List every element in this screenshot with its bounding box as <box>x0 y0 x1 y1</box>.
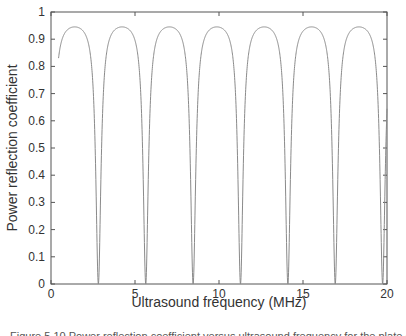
x-tick-label: 0 <box>48 287 55 301</box>
y-tick-label: 0.3 <box>28 195 45 209</box>
y-tick-label: 0.9 <box>28 32 45 46</box>
y-tick-label: 0.4 <box>28 168 45 182</box>
reflection-curve <box>59 27 387 284</box>
y-tick-label: 0.5 <box>28 141 45 155</box>
y-tick-label: 0.8 <box>28 59 45 73</box>
y-tick-label: 0.1 <box>28 250 45 264</box>
figure-caption: Figure 5.10 Power reflection coefficient… <box>10 329 406 336</box>
y-axis-ticks: 00.10.20.30.40.50.60.70.80.91 <box>28 5 387 291</box>
y-tick-label: 0 <box>38 277 45 291</box>
data-series <box>59 27 387 284</box>
line-chart: 05101520 00.10.20.30.40.50.60.70.80.91 U… <box>0 0 406 336</box>
y-tick-label: 0.2 <box>28 223 45 237</box>
figure: 05101520 00.10.20.30.40.50.60.70.80.91 U… <box>0 0 406 336</box>
y-tick-label: 0.7 <box>28 87 45 101</box>
x-axis-label: Ultrasound frequency (MHz) <box>131 294 306 310</box>
y-tick-label: 0.6 <box>28 114 45 128</box>
x-tick-label: 20 <box>380 287 394 301</box>
y-tick-label: 1 <box>38 5 45 19</box>
y-axis-label: Power reflection coefficient <box>4 64 20 231</box>
